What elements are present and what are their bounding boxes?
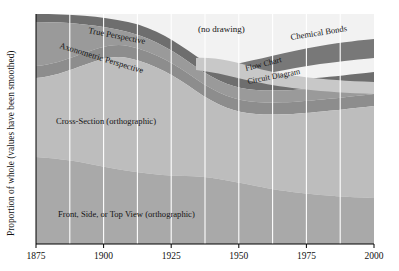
series-label-cross-section: Cross-Section (orthographic) [56,116,156,126]
x-tick-label-1975: 1975 [297,251,316,261]
y-axis-title: Proportion of whole (values have been sm… [6,51,17,236]
streamgraph-svg: 1875 1900 1925 1950 1975 2000 Proportion… [0,0,399,271]
x-tick-label-2000: 2000 [365,251,384,261]
x-tick-label-1925: 1925 [162,251,181,261]
x-tick-label-1875: 1875 [27,251,46,261]
x-tick-label-1900: 1900 [94,251,113,261]
series-label-front-side-top: Front, Side, or Top View (orthographic) [58,209,195,219]
x-tick-label-1950: 1950 [229,251,248,261]
chart-container: 1875 1900 1925 1950 1975 2000 Proportion… [0,0,399,271]
annotation-no-drawing: (no drawing) [198,24,245,34]
